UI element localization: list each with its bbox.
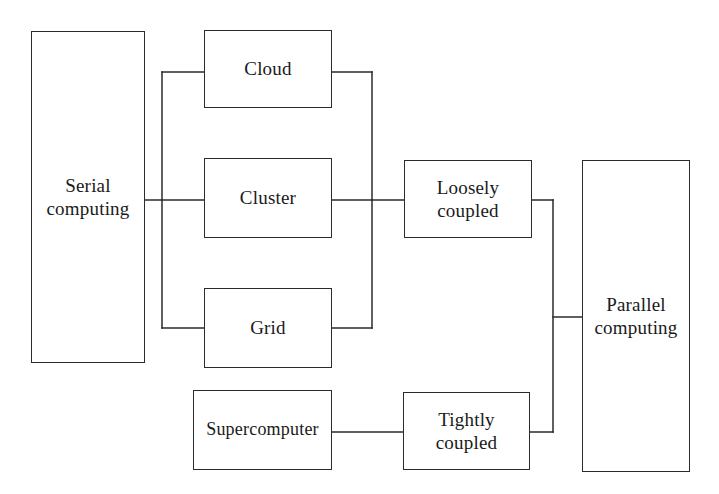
node-grid[interactable]: Grid [204,288,332,368]
node-parallel-computing[interactable]: Parallel computing [582,160,690,472]
node-grid-label: Grid [246,316,290,339]
node-parallel-computing-label: Parallel computing [590,293,681,339]
node-serial-computing[interactable]: Serial computing [31,31,145,363]
node-loosely-coupled[interactable]: Loosely coupled [404,160,532,238]
node-loosely-coupled-label: Loosely coupled [433,176,504,222]
node-cloud[interactable]: Cloud [204,30,332,108]
block-diagram-canvas: Serial computing Cloud Cluster Grid Loos… [0,0,719,494]
node-cluster[interactable]: Cluster [204,158,332,238]
node-cloud-label: Cloud [240,57,295,80]
node-supercomputer[interactable]: Supercomputer [193,390,332,470]
node-serial-computing-label: Serial computing [42,174,133,220]
node-supercomputer-label: Supercomputer [202,419,323,441]
node-tightly-coupled-label: Tightly coupled [432,408,502,454]
node-tightly-coupled[interactable]: Tightly coupled [403,392,530,470]
node-cluster-label: Cluster [236,186,300,209]
